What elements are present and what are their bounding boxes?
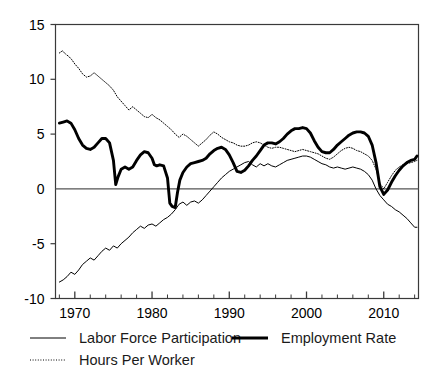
y-axis-tick-marks bbox=[51, 25, 56, 299]
x-axis-tick-labels: 19701980199020002010 bbox=[59, 305, 399, 321]
legend-label: Labor Force Participation bbox=[79, 330, 241, 346]
y-tick-label: 0 bbox=[37, 181, 45, 197]
line-chart: 151050-5-10 19701980199020002010 Labor F… bbox=[0, 0, 435, 378]
y-tick-label: -10 bbox=[24, 291, 44, 307]
y-tick-label: 5 bbox=[37, 126, 45, 142]
legend-label: Hours Per Worker bbox=[79, 352, 195, 368]
x-tick-label: 1980 bbox=[136, 305, 167, 321]
x-tick-label: 2000 bbox=[291, 305, 322, 321]
x-tick-label: 2010 bbox=[368, 305, 399, 321]
y-axis-tick-labels: 151050-5-10 bbox=[24, 17, 44, 307]
chart-legend: Labor Force ParticipationEmployment Rate… bbox=[30, 330, 396, 368]
x-tick-label: 1990 bbox=[214, 305, 245, 321]
plot-frame bbox=[56, 25, 419, 299]
legend-label: Employment Rate bbox=[281, 330, 396, 346]
series-line-2 bbox=[59, 121, 417, 208]
series-line-1 bbox=[59, 156, 417, 282]
y-tick-label: 15 bbox=[29, 17, 45, 33]
x-tick-label: 1970 bbox=[59, 305, 90, 321]
chart-figure: 151050-5-10 19701980199020002010 Labor F… bbox=[0, 0, 435, 378]
data-series-group bbox=[59, 51, 417, 282]
y-tick-label: -5 bbox=[32, 236, 45, 252]
y-tick-label: 10 bbox=[29, 71, 45, 87]
